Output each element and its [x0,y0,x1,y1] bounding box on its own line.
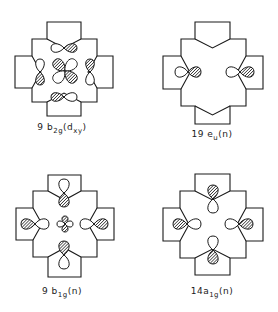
d-orbital-lobe [53,71,65,83]
p-orbital-lobe [225,219,239,229]
p-orbital-lobe [173,219,187,229]
p-orbital-lobe [86,59,95,72]
p-orbital-lobe [188,67,201,77]
p-orbital-lobe [86,72,95,85]
label-14a1g-n: 14a1g(n) [191,286,234,299]
panel-9b2g-dxy [15,22,113,116]
p-orbital-lobe [175,67,188,77]
d-orbital-lobe [53,59,65,71]
p-orbital-lobe [80,219,94,229]
p-orbital-lobe [59,179,69,193]
p-orbital-lobe [36,59,45,72]
p-orbital-lobe [187,219,201,229]
label-19eu-n: 19 eu(n) [191,129,232,142]
p-orbital-lobe [59,241,69,255]
bottom-notch [195,106,230,115]
panel-14a1g-n [163,174,263,275]
panel-9b1g-n [16,175,114,277]
p-orbital-lobe [35,219,49,229]
p-orbital-lobe [226,67,240,77]
p-orbital-lobe [59,193,69,207]
p-orbital-lobe [36,72,45,85]
label-9b1g-n: 9 b1g(n) [42,286,82,299]
p-orbital-lobe [208,250,218,264]
p-orbital-lobe [239,219,253,229]
p-orbital-lobe [208,236,218,250]
p-orbital-lobe [21,219,35,229]
p-orbital-lobe [59,255,69,269]
panel-19eu-n [163,22,263,124]
d-orbital-lobe [65,59,77,71]
p-orbital-lobe [240,67,254,77]
d-orbital-lobe [65,71,77,83]
p-orbital-lobe [94,219,108,229]
orbital-diagram-canvas [0,0,278,312]
top-notch [195,39,230,48]
p-orbital-lobe [208,185,218,199]
p-orbital-lobe [64,44,77,53]
p-orbital-lobe [51,44,64,53]
label-9b2g-dxy: 9 b2g(dxy) [37,122,86,135]
p-orbital-lobe [208,199,218,213]
